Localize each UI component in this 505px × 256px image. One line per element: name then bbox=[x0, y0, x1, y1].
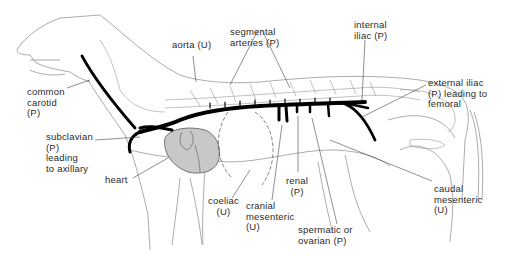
dog-arterial-diagram: common carotid (P) aorta (U) segmental a… bbox=[0, 0, 505, 256]
label-aorta: aorta (U) bbox=[172, 40, 211, 51]
label-segmental-arteries: segmental arteries (P) bbox=[230, 27, 279, 48]
label-spermatic-ovarian: spermatic or ovarian (P) bbox=[298, 225, 353, 246]
label-renal: renal (P) bbox=[286, 176, 308, 197]
label-internal-iliac: internal iliac (P) bbox=[354, 20, 387, 41]
label-cranial-mesenteric: cranial mesenteric (U) bbox=[246, 201, 294, 233]
label-heart: heart bbox=[105, 175, 128, 186]
diaphragm bbox=[218, 112, 232, 178]
heart-shape bbox=[165, 128, 220, 173]
label-subclavian: subclavian (P) leading to axillary bbox=[46, 132, 93, 174]
leader-lines bbox=[67, 30, 432, 224]
spine bbox=[100, 40, 455, 149]
label-caudal-mesenteric: caudal mesenteric (U) bbox=[434, 184, 482, 216]
label-common-carotid: common carotid (P) bbox=[27, 87, 65, 119]
label-coeliac: coeliac (U) bbox=[208, 196, 239, 217]
label-external-iliac: external iliac (P) leading to femoral bbox=[428, 78, 487, 110]
